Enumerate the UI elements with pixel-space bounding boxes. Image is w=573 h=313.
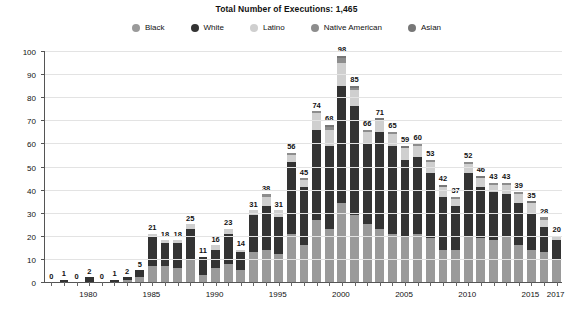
bar-value-label: 71 [376, 109, 384, 117]
x-tick-mark [152, 282, 153, 286]
bar-segment-white [135, 270, 144, 277]
bar-segment-white [186, 229, 195, 259]
bar-segment-white [540, 227, 549, 252]
legend-item-native-american[interactable]: Native American [311, 24, 382, 32]
bar-value-label: 11 [199, 247, 207, 255]
x-axis-tick-label: 1995 [269, 290, 287, 299]
bar-value-label: 5 [138, 261, 142, 269]
bar-segment-latino [350, 90, 359, 106]
x-tick-mark [228, 282, 229, 286]
bar-1987[interactable] [173, 240, 182, 282]
x-tick-mark [342, 282, 343, 286]
legend-item-white[interactable]: White [191, 24, 224, 32]
bar-1989[interactable] [199, 257, 208, 282]
bar-segment-white [401, 160, 410, 236]
y-axis-tick-label: 80 [10, 94, 36, 103]
x-axis-tick-label: 2010 [458, 290, 476, 299]
legend-label: Asian [421, 24, 441, 32]
bar-segment-black [287, 234, 296, 283]
y-axis-tick-label: 70 [10, 117, 36, 126]
bar-segment-latino [287, 155, 296, 162]
legend-label: Latino [263, 24, 285, 32]
legend-item-latino[interactable]: Latino [250, 24, 285, 32]
x-axis-tick-label: 2017 [547, 290, 565, 299]
bar-segment-black [489, 240, 498, 282]
bar-2013[interactable] [502, 183, 511, 282]
legend-item-black[interactable]: Black [132, 24, 165, 32]
bar-1990[interactable] [211, 245, 220, 282]
y-axis-tick-label: 20 [10, 232, 36, 241]
x-tick-mark [355, 282, 356, 286]
x-tick-mark [456, 282, 457, 286]
bar-value-label: 0 [49, 273, 53, 281]
bar-1994[interactable] [262, 194, 271, 282]
x-axis-tick-label: 1990 [206, 290, 224, 299]
x-tick-mark [468, 282, 469, 286]
bar-1996[interactable] [287, 153, 296, 282]
y-tick-mark [41, 236, 45, 237]
x-tick-mark [216, 282, 217, 286]
bar-1997[interactable] [300, 178, 309, 282]
y-tick-mark [41, 97, 45, 98]
bar-segment-white [464, 173, 473, 235]
y-tick-mark [41, 74, 45, 75]
x-tick-mark [506, 282, 507, 286]
bar-2007[interactable] [426, 160, 435, 282]
bar-1998[interactable] [312, 111, 321, 282]
bar-value-label: 0 [100, 273, 104, 281]
bar-segment-latino [540, 220, 549, 227]
bar-2001[interactable] [350, 86, 359, 282]
x-axis-tick-label: 2005 [395, 290, 413, 299]
y-gridline [45, 143, 562, 144]
bar-segment-black [552, 259, 561, 282]
x-tick-mark [165, 282, 166, 286]
bar-value-label: 21 [148, 224, 156, 232]
bar-segment-white [439, 197, 448, 250]
bar-2014[interactable] [514, 192, 523, 282]
x-tick-mark [279, 282, 280, 286]
x-tick-mark [51, 282, 52, 286]
bar-segment-latino [363, 132, 372, 144]
x-tick-mark [114, 282, 115, 286]
x-tick-mark [190, 282, 191, 286]
y-tick-mark [41, 167, 45, 168]
y-tick-mark [41, 213, 45, 214]
y-gridline [45, 97, 562, 98]
bar-1984[interactable] [135, 270, 144, 282]
bar-segment-black [236, 270, 245, 282]
bar-2016[interactable] [540, 217, 549, 282]
bar-segment-white [552, 240, 561, 258]
x-axis-tick-label: 1980 [79, 290, 97, 299]
bar-segment-latino [527, 203, 536, 212]
bar-1992[interactable] [236, 250, 245, 282]
y-axis-tick-label: 30 [10, 209, 36, 218]
bar-2010[interactable] [464, 162, 473, 282]
x-tick-mark [557, 282, 558, 286]
x-tick-mark [380, 282, 381, 286]
bar-value-label: 52 [464, 152, 472, 160]
bar-2008[interactable] [439, 185, 448, 282]
bar-segment-white [527, 213, 536, 250]
bar-segment-black [173, 268, 182, 282]
x-tick-mark [481, 282, 482, 286]
bar-value-label: 37 [451, 187, 459, 195]
bar-1991[interactable] [224, 229, 233, 282]
y-tick-mark [41, 259, 45, 260]
bar-1995[interactable] [274, 210, 283, 282]
bar-1993[interactable] [249, 210, 258, 282]
bar-2000[interactable] [337, 56, 346, 282]
legend-label: Native American [324, 24, 382, 32]
bar-2012[interactable] [489, 183, 498, 282]
bar-segment-white [413, 157, 422, 233]
y-gridline [45, 213, 562, 214]
bar-value-label: 31 [275, 201, 283, 209]
x-tick-mark [443, 282, 444, 286]
x-tick-mark [266, 282, 267, 286]
bar-1986[interactable] [161, 240, 170, 282]
bar-2009[interactable] [451, 197, 460, 282]
bar-2011[interactable] [476, 176, 485, 282]
bar-1988[interactable] [186, 224, 195, 282]
bar-segment-white [489, 192, 498, 241]
bar-1985[interactable] [148, 234, 157, 283]
legend-item-asian[interactable]: Asian [408, 24, 441, 32]
